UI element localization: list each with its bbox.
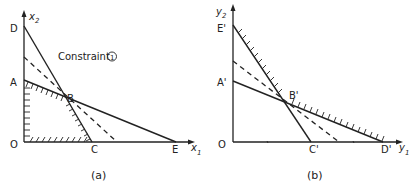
line-AE — [24, 80, 176, 142]
panel-b: y2 y1 E' A' B' C' D' O (b) — [215, 4, 409, 182]
point-A-prime-label: A' — [217, 77, 227, 88]
point-A-label: A — [10, 77, 17, 88]
feasible-region-hatching — [24, 82, 90, 142]
point-B-prime-label: B' — [289, 90, 299, 101]
point-E-prime-label: E' — [217, 23, 226, 34]
caption-b: (b) — [307, 169, 323, 182]
x1-axis-label: x1 — [190, 142, 201, 157]
line-EC — [233, 25, 311, 142]
feasible-region-hatching-b — [238, 29, 384, 141]
y2-axis-arrow-icon — [231, 4, 236, 11]
constraint-marker-number: 1 — [110, 54, 114, 62]
panel-a: x2 x1 D A B C E O Constraint 1 (a) — [10, 10, 201, 182]
caption-a: (a) — [91, 169, 106, 182]
point-D-prime-label: D' — [381, 144, 391, 155]
origin-label-a: O — [10, 139, 18, 150]
origin-label-b: O — [218, 139, 226, 150]
point-B-label: B — [67, 93, 74, 104]
point-C-label: C — [91, 144, 98, 155]
y2-axis-label: y2 — [215, 6, 227, 20]
x2-axis-arrow-icon — [22, 10, 27, 17]
y1-axis-label: y1 — [398, 142, 409, 157]
point-E-label: E — [172, 144, 178, 155]
line-AD — [233, 81, 383, 142]
dashed-objective-line-b — [233, 61, 339, 142]
constraint-annotation: Constraint — [58, 51, 110, 62]
point-D-label: D — [10, 23, 18, 34]
point-C-prime-label: C' — [309, 144, 319, 155]
x2-axis-label: x2 — [28, 11, 40, 25]
